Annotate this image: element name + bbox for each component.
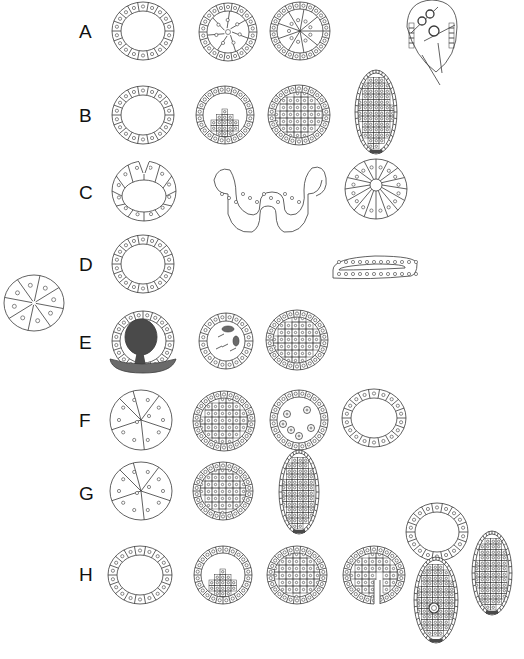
embryo-stages-figure: ABCDEFGH — [0, 0, 524, 659]
embryo-row-h-stage-3 — [267, 546, 327, 604]
embryo-row-b-stage-2 — [196, 86, 254, 144]
embryo-row-h-stage-1 — [108, 546, 172, 604]
embryo-row-c-stage-1 — [112, 160, 176, 221]
embryo-row-f-stage-2 — [193, 391, 255, 451]
embryo-row-e-stage-2 — [199, 313, 253, 369]
embryo-row-f-stage-1 — [105, 376, 177, 456]
embryo-row-e-stage-3 — [266, 310, 328, 370]
embryo-row-a-stage-3 — [270, 2, 330, 60]
embryo-row-d-stage-1 — [112, 235, 174, 293]
embryo-row-h-stage-6 — [414, 557, 458, 643]
embryo-row-h-stage-2 — [194, 546, 252, 604]
embryo-row-f-stage-4 — [342, 389, 406, 447]
embryo-standalone-1 — [4, 275, 64, 331]
embryo-row-h-stage-4 — [343, 546, 405, 609]
embryo-row-e-stage-1 — [110, 311, 176, 373]
embryo-drawings — [0, 0, 524, 659]
embryo-row-b-stage-4 — [355, 70, 397, 154]
embryo-row-a-stage-4 — [407, 0, 457, 85]
embryo-row-a-stage-1 — [112, 2, 174, 60]
embryo-row-b-stage-3 — [268, 85, 330, 145]
embryo-row-h-stage-7 — [472, 531, 512, 615]
embryo-row-h-stage-5 — [406, 503, 468, 561]
embryo-row-c-stage-2 — [214, 167, 326, 232]
embryo-row-g-stage-3 — [279, 450, 319, 534]
embryo-row-f-stage-3 — [270, 390, 328, 450]
embryo-row-g-stage-1 — [105, 447, 177, 527]
embryo-row-c-stage-3 — [345, 159, 407, 219]
embryo-row-a-stage-2 — [199, 3, 257, 61]
embryo-row-d-stage-2 — [333, 256, 418, 279]
embryo-row-b-stage-1 — [112, 86, 174, 144]
embryo-row-g-stage-2 — [193, 462, 253, 520]
